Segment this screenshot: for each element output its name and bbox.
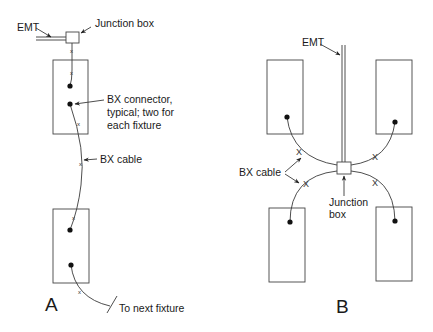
panel-a-letter: A xyxy=(45,294,58,315)
junction-box-a xyxy=(66,32,79,43)
junction-box-label-b-1: Junction xyxy=(329,196,368,208)
wiring-diagram: EMT Junction box x x x x x x BX connecto… xyxy=(0,0,433,332)
svg-text:x: x xyxy=(79,161,82,167)
to-next-fixture-label: To next fixture xyxy=(119,302,185,314)
emt-conduit-a xyxy=(36,37,66,40)
bx-connector-label-a-2: typical; two for xyxy=(107,106,175,118)
svg-text:x: x xyxy=(70,70,73,76)
bx-connector-a-4 xyxy=(68,262,73,267)
bx-connector-b-3 xyxy=(287,219,292,224)
svg-text:x: x xyxy=(70,48,73,54)
fixture-b-top-left xyxy=(267,60,303,134)
svg-text:X: X xyxy=(372,178,378,188)
emt-label-b: EMT xyxy=(302,36,325,48)
bx-connector-label-a-3: each fixture xyxy=(107,119,161,131)
panel-a: EMT Junction box x x x x x x BX connecto… xyxy=(17,17,185,315)
bx-connector-a-3 xyxy=(67,227,72,232)
bx-connector-b-1 xyxy=(284,114,289,119)
emt-conduit-b xyxy=(342,45,345,162)
svg-text:x: x xyxy=(77,121,80,127)
bx-cable-label-a: BX cable xyxy=(100,153,142,165)
junction-box-label-a: Junction box xyxy=(95,17,155,29)
svg-text:X: X xyxy=(296,147,302,157)
panel-b: EMT X X X X BX cable Junction box B xyxy=(239,36,412,317)
bx-connector-label-a-1: BX connector, xyxy=(107,93,172,105)
svg-text:x: x xyxy=(72,215,75,221)
cut-mark-a xyxy=(107,296,117,313)
svg-text:x: x xyxy=(78,289,81,295)
bx-connector-a-2 xyxy=(67,101,72,106)
emt-label-a: EMT xyxy=(17,21,40,33)
svg-text:X: X xyxy=(372,152,378,162)
bx-connector-a-1 xyxy=(67,83,72,88)
junction-box-b xyxy=(337,162,351,174)
bx-cable-label-b: BX cable xyxy=(239,166,281,178)
bx-connector-b-2 xyxy=(392,119,397,124)
junction-box-label-b-2: box xyxy=(329,208,347,220)
bx-connector-b-4 xyxy=(392,218,397,223)
fixture-b-bottom-left xyxy=(269,208,305,282)
panel-b-letter: B xyxy=(336,296,349,317)
svg-text:X: X xyxy=(303,179,309,189)
fixture-a-2 xyxy=(53,209,89,283)
fixture-b-bottom-right xyxy=(376,207,412,281)
